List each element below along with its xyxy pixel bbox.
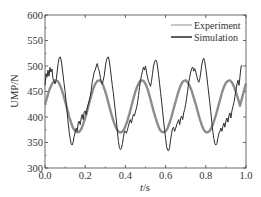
y-tick-label: 400 [27,112,43,123]
series-simulation [45,80,246,132]
y-tick-label: 350 [27,137,43,148]
y-axis-label: UMP/N [9,74,20,108]
y-tick-label: 550 [27,35,43,46]
y-tick-label: 500 [27,61,43,72]
y-tick-label: 450 [27,86,43,97]
x-tick-label: 0.2 [79,170,92,181]
x-tick-label: 0.8 [199,170,212,181]
y-tick-label: 600 [27,10,43,21]
series-experiment [45,57,242,151]
x-tick-label: 0.6 [159,170,172,181]
x-tick-label: 0.0 [38,170,51,181]
legend-label-experiment: Experiment [194,20,241,31]
x-tick-label: 1.0 [239,170,252,181]
x-axis-label: t/s [140,182,150,193]
chart: 300350400450500550600 0.00.20.40.60.81.0… [0,0,261,197]
x-tick-label: 0.4 [119,170,133,181]
legend-label-simulation: Simulation [194,32,238,43]
series-layer [45,57,246,151]
legend: ExperimentSimulation [171,20,241,43]
